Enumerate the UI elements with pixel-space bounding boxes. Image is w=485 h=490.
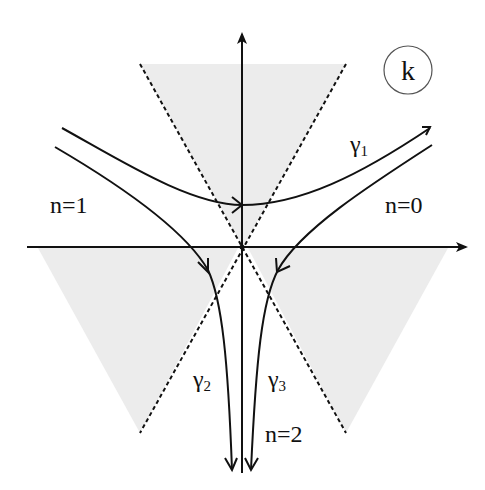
- region-label-n2: n=2: [265, 421, 303, 447]
- shaded-sector-bottom-left: [38, 248, 238, 433]
- contour-label-gamma3: γ3: [267, 366, 286, 394]
- plane-label: k: [401, 55, 415, 86]
- contour-diagram: k n=0 n=1 n=2 γ1 γ2 γ3: [0, 0, 485, 490]
- contour-label-gamma1: γ1: [349, 131, 368, 159]
- shaded-sector-bottom-right: [248, 248, 448, 433]
- contour-label-gamma2: γ2: [192, 366, 211, 394]
- origin-dot: [240, 245, 245, 250]
- region-label-n0: n=0: [385, 192, 423, 218]
- region-label-n1: n=1: [50, 192, 88, 218]
